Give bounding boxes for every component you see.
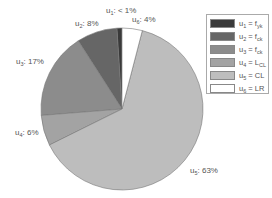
legend-swatch <box>210 45 235 54</box>
legend-item-u3: u3 = fck <box>210 45 268 55</box>
legend: u1 = fyk u2 = fck u3 = fck u4 = LCL u5 =… <box>206 14 269 94</box>
legend-item-u1: u1 = fyk <box>210 19 268 29</box>
legend-label: u4 = LCL <box>239 58 266 68</box>
legend-swatch <box>210 19 235 28</box>
legend-item-u4: u4 = LCL <box>210 58 268 68</box>
legend-swatch <box>210 58 235 67</box>
label-u3: u3: 17% <box>16 58 44 68</box>
legend-label: u2 = fck <box>239 32 262 42</box>
legend-label: u5 = CL <box>239 71 264 81</box>
legend-item-u5: u5 = CL <box>210 71 268 81</box>
legend-item-u6: u6 = LR <box>210 84 268 94</box>
legend-label: u3 = fck <box>239 45 262 55</box>
legend-item-u2: u2 = fck <box>210 32 268 42</box>
legend-swatch <box>210 84 235 93</box>
label-u2: u2: 8% <box>75 20 99 30</box>
legend-swatch <box>210 32 235 41</box>
label-u6: u6: 4% <box>132 16 156 26</box>
label-u4: u4: 6% <box>15 129 39 139</box>
legend-swatch <box>210 71 235 80</box>
legend-label: u1 = fyk <box>239 19 262 29</box>
label-u5: u5: 63% <box>190 167 218 177</box>
legend-label: u6 = LR <box>239 84 264 94</box>
